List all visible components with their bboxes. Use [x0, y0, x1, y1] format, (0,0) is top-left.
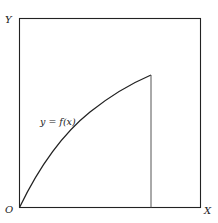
function-graph: Y O X y = f(x) — [0, 0, 218, 223]
y-axis-label: Y — [5, 14, 13, 25]
plot-frame — [20, 19, 201, 208]
origin-label: O — [5, 204, 13, 215]
x-axis-label: X — [203, 205, 212, 216]
curve-label: y = f(x) — [39, 116, 76, 127]
diagram-canvas: Y O X y = f(x) — [0, 0, 218, 223]
function-curve — [20, 75, 152, 208]
